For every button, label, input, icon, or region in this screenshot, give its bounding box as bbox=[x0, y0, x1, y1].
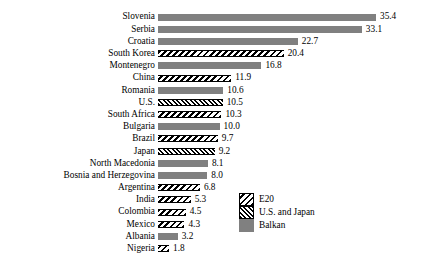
chart-row: Bulgaria10.0 bbox=[0, 121, 432, 133]
chart-row: Japan9.2 bbox=[0, 145, 432, 157]
legend-swatch-balkan bbox=[239, 219, 254, 232]
bar-e20 bbox=[158, 209, 186, 216]
legend-swatch-usjp bbox=[239, 206, 254, 219]
category-label: Nigeria bbox=[0, 244, 158, 253]
value-label: 11.9 bbox=[231, 73, 251, 82]
bar-container: 33.1 bbox=[158, 25, 432, 34]
bar-balkan bbox=[158, 123, 220, 130]
category-label: South Korea bbox=[0, 49, 158, 58]
chart-row: Slovenia35.4 bbox=[0, 11, 432, 23]
bar-balkan bbox=[158, 14, 376, 21]
bar-e20 bbox=[158, 111, 221, 118]
value-label: 22.7 bbox=[298, 37, 318, 46]
bar-e20 bbox=[158, 50, 284, 57]
chart-legend: E20U.S. and JapanBalkan bbox=[239, 193, 315, 232]
category-label: Bosnia and Herzegovina bbox=[0, 171, 158, 180]
bar-e20 bbox=[158, 196, 191, 203]
legend-label: Balkan bbox=[259, 219, 315, 232]
legend-label: U.S. and Japan bbox=[259, 206, 315, 219]
category-label: Serbia bbox=[0, 25, 158, 34]
value-label: 16.8 bbox=[261, 61, 281, 70]
value-label: 9.7 bbox=[218, 134, 234, 143]
category-label: Albania bbox=[0, 232, 158, 241]
category-label: India bbox=[0, 195, 158, 204]
chart-row: U.S.10.5 bbox=[0, 96, 432, 108]
chart-row: Albania3.2 bbox=[0, 230, 432, 242]
value-label: 35.4 bbox=[376, 12, 396, 21]
bar-usjp bbox=[158, 99, 223, 106]
bar-e20 bbox=[158, 221, 184, 228]
chart-row: Nigeria1.8 bbox=[0, 243, 432, 255]
value-label: 10.6 bbox=[223, 86, 243, 95]
category-label: Bulgaria bbox=[0, 122, 158, 131]
category-label: Croatia bbox=[0, 37, 158, 46]
legend-swatch-e20 bbox=[239, 193, 254, 206]
chart-row: Argentina6.8 bbox=[0, 182, 432, 194]
bar-balkan bbox=[158, 233, 178, 240]
bar-container: 10.3 bbox=[158, 110, 432, 119]
category-label: U.S. bbox=[0, 98, 158, 107]
bar-balkan bbox=[158, 26, 362, 33]
bar-container: 10.5 bbox=[158, 98, 432, 107]
chart-row: India5.3 bbox=[0, 194, 432, 206]
bar-balkan bbox=[158, 62, 261, 69]
bar-balkan bbox=[158, 38, 298, 45]
category-label: Japan bbox=[0, 147, 158, 156]
chart-row: Croatia22.7 bbox=[0, 35, 432, 47]
bar-balkan bbox=[158, 87, 223, 94]
bar-balkan bbox=[158, 160, 208, 167]
category-label: Mexico bbox=[0, 220, 158, 229]
bar-container: 3.2 bbox=[158, 232, 432, 241]
bar-container: 35.4 bbox=[158, 12, 432, 21]
bar-container: 6.8 bbox=[158, 183, 432, 192]
bar-container: 1.8 bbox=[158, 244, 432, 253]
chart-row: Bosnia and Herzegovina8.0 bbox=[0, 169, 432, 181]
category-label: North Macedonia bbox=[0, 159, 158, 168]
chart-row: China11.9 bbox=[0, 72, 432, 84]
bar-container: 16.8 bbox=[158, 61, 432, 70]
bar-container: 11.9 bbox=[158, 73, 432, 82]
bar-container: 8.0 bbox=[158, 171, 432, 180]
chart-row: South Korea20.4 bbox=[0, 48, 432, 60]
category-label: Argentina bbox=[0, 183, 158, 192]
legend-swatches bbox=[239, 193, 254, 232]
bar-e20 bbox=[158, 135, 218, 142]
category-label: China bbox=[0, 73, 158, 82]
bar-container: 8.1 bbox=[158, 159, 432, 168]
bar-balkan bbox=[158, 172, 207, 179]
chart-row: Mexico4.3 bbox=[0, 218, 432, 230]
category-label: South Africa bbox=[0, 110, 158, 119]
value-label: 8.1 bbox=[208, 159, 224, 168]
legend-label: E20 bbox=[259, 193, 315, 206]
value-label: 9.2 bbox=[215, 147, 231, 156]
value-label: 10.0 bbox=[220, 122, 240, 131]
legend-labels: E20U.S. and JapanBalkan bbox=[254, 193, 315, 232]
category-label: Montenegro bbox=[0, 61, 158, 70]
category-label: Colombia bbox=[0, 207, 158, 216]
bar-e20 bbox=[158, 184, 200, 191]
bar-container: 9.2 bbox=[158, 147, 432, 156]
value-label: 33.1 bbox=[362, 25, 382, 34]
bar-container: 9.7 bbox=[158, 134, 432, 143]
value-label: 4.5 bbox=[186, 207, 202, 216]
chart-row: Colombia4.5 bbox=[0, 206, 432, 218]
value-label: 10.3 bbox=[221, 110, 241, 119]
bar-e20 bbox=[158, 75, 231, 82]
bar-usjp bbox=[158, 148, 215, 155]
chart-rows: Slovenia35.4Serbia33.1Croatia22.7South K… bbox=[0, 11, 432, 255]
value-label: 10.5 bbox=[223, 98, 243, 107]
value-label: 5.3 bbox=[191, 195, 207, 204]
chart-row: North Macedonia8.1 bbox=[0, 157, 432, 169]
bar-container: 20.4 bbox=[158, 49, 432, 58]
chart-row: Montenegro16.8 bbox=[0, 60, 432, 72]
value-label: 20.4 bbox=[284, 49, 304, 58]
value-label: 8.0 bbox=[207, 171, 223, 180]
chart-row: Romania10.6 bbox=[0, 84, 432, 96]
value-label: 3.2 bbox=[178, 232, 194, 241]
bar-container: 10.6 bbox=[158, 86, 432, 95]
value-label: 1.8 bbox=[169, 244, 185, 253]
bar-container: 22.7 bbox=[158, 37, 432, 46]
category-label: Romania bbox=[0, 86, 158, 95]
category-label: Brazil bbox=[0, 134, 158, 143]
